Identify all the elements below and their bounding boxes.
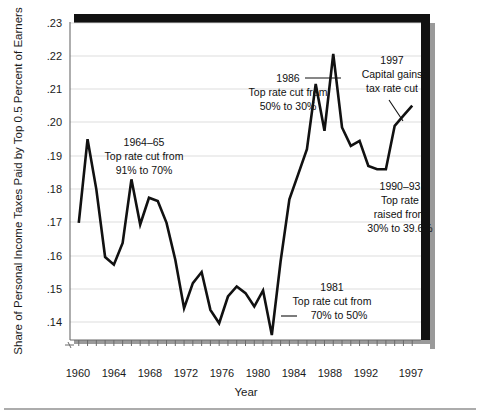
annotation-line: Capital gains [362,68,423,80]
x-tick-label: 1968 [138,367,162,379]
x-tick-label: 1972 [174,367,198,379]
y-axis-title: Share of Personal Income Taxes Paid by T… [12,7,24,355]
annotation-line: Top rate cut from [249,86,328,98]
annotation-line: 91% to 70% [116,164,173,176]
annotation-line: Top rate cut from [293,295,372,307]
axis-break-mark [65,342,74,348]
annotation-line: 1986 [276,72,300,84]
chart-figure: .23 .22 .21 .20 .19 .18 .17 .16 .15 .14 … [0,0,480,416]
y-tick-label: .16 [47,250,62,262]
y-tick-label: .15 [47,283,62,295]
annotation-line: 30% to 39.6% [367,222,432,234]
line-chart: .23 .22 .21 .20 .19 .18 .17 .16 .15 .14 … [0,0,480,416]
y-tick-label: .17 [47,216,62,228]
x-tick-label: 1964 [102,367,126,379]
annotation-line: raised from [374,208,427,220]
annotation-line: 1964–65 [124,136,165,148]
annotation-line: 1997 [380,54,404,66]
annotation-line: tax rate cut [366,82,418,94]
annotation-line: 1981 [320,281,344,293]
y-tick-label: .21 [47,83,62,95]
x-tick-label: 1997 [399,367,423,379]
y-tick-label: .20 [47,116,62,128]
x-axis-tick-labels: 1960 1964 1968 1972 1976 1980 1984 1988 … [66,367,423,379]
x-tick-label: 1992 [354,367,378,379]
y-tick-label: .18 [47,183,62,195]
annotation-line: Top rate [381,194,419,206]
annotation-line: 50% to 30% [260,100,317,112]
x-tick-label: 1960 [66,367,90,379]
y-tick-label: .23 [47,17,62,29]
y-tick-label: .14 [47,316,62,328]
y-axis-tick-labels: .23 .22 .21 .20 .19 .18 .17 .16 .15 .14 [47,17,62,328]
x-tick-label: 1984 [282,367,306,379]
annotation-line: Top rate cut from [105,150,184,162]
annotation-line: 70% to 50% [311,309,368,321]
annotation-line: 1990–93 [380,180,421,192]
x-tick-label: 1980 [246,367,270,379]
y-tick-label: .22 [47,50,62,62]
y-tick-label: .19 [47,150,62,162]
x-axis-title: Year [234,386,257,398]
x-tick-label: 1988 [318,367,342,379]
x-tick-label: 1976 [210,367,234,379]
